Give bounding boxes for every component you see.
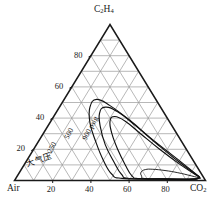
bottom-tick-label-20: 20 (47, 185, 56, 194)
bottom-tick-label-40: 40 (85, 185, 94, 194)
apex-label-c2h4: C2H4 (94, 5, 114, 15)
bottom-tick-label-80: 80 (161, 185, 170, 194)
apex-label-sub-4: 4 (110, 7, 113, 14)
left-tick-label-60: 60 (55, 82, 64, 91)
left-tick-label-20: 20 (17, 144, 26, 153)
corner-label-sub-2: 2 (203, 186, 206, 193)
left-tick-label-80: 80 (74, 51, 83, 60)
corner-label-co2: CO2 (190, 184, 206, 194)
ternary-diagram-canvas (0, 0, 219, 205)
bottom-tick-label-60: 60 (123, 185, 132, 194)
corner-label-co: CO (190, 183, 203, 193)
corner-label-air: Air (7, 184, 20, 194)
left-tick-label-40: 40 (36, 113, 45, 122)
figure-root: C2H4 Air CO2 20406080 20406080 大气压250500… (0, 0, 219, 205)
